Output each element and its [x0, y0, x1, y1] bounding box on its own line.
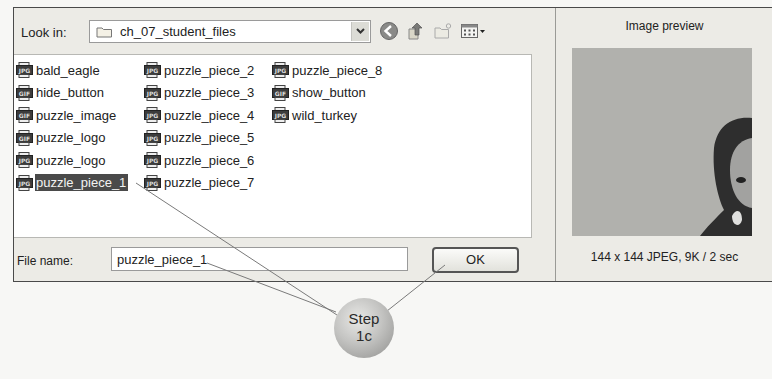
file-list-item-label: puzzle_image — [35, 107, 118, 124]
file-list-item-label: bald_eagle — [35, 62, 102, 79]
file-list-item[interactable]: JPGbald_eagle — [16, 59, 128, 82]
svg-text:JPG: JPG — [274, 112, 287, 120]
folder-icon — [96, 26, 113, 38]
jpg-file-icon: JPG — [16, 175, 34, 191]
look-in-dropdown[interactable]: ch_07_student_files — [89, 20, 371, 43]
back-icon[interactable] — [379, 21, 399, 41]
svg-text:JPG: JPG — [146, 179, 159, 187]
file-list-item-label: show_button — [291, 84, 368, 101]
file-list-item[interactable]: JPGpuzzle_piece_4 — [144, 104, 256, 127]
file-name-value: puzzle_piece_1 — [117, 252, 207, 267]
step-callout-line2: 1c — [334, 327, 394, 344]
jpg-file-icon: JPG — [272, 107, 290, 123]
file-list-item-label: puzzle_piece_4 — [163, 107, 256, 124]
jpg-file-icon: JPG — [144, 62, 162, 78]
preview-image — [572, 48, 752, 236]
file-list-item-label: puzzle_piece_6 — [163, 152, 256, 169]
file-list-item-label: wild_turkey — [291, 107, 359, 124]
svg-text:GIF: GIF — [19, 89, 30, 96]
select-image-dialog: Look in: ch_07_student_files — [13, 7, 772, 282]
file-list-item[interactable]: JPGpuzzle_piece_2 — [144, 59, 256, 82]
file-column-1: JPGbald_eagleGIFhide_buttonGIFpuzzle_ima… — [16, 59, 128, 194]
svg-text:JPG: JPG — [146, 67, 159, 75]
file-name-label: File name: — [17, 254, 73, 268]
file-list-item-label: puzzle_piece_5 — [163, 129, 256, 146]
file-list-item-label: puzzle_piece_8 — [291, 62, 384, 79]
file-list-item[interactable]: JPGpuzzle_piece_7 — [144, 172, 256, 195]
svg-text:JPG: JPG — [18, 67, 31, 75]
jpg-file-icon: JPG — [144, 107, 162, 123]
step-callout-badge: Step 1c — [334, 298, 394, 358]
svg-text:JPG: JPG — [18, 179, 31, 187]
new-folder-icon[interactable] — [433, 21, 453, 41]
jpg-file-icon: JPG — [144, 175, 162, 191]
file-list-item[interactable]: JPGpuzzle_piece_1 — [16, 172, 128, 195]
gif-file-icon: GIF — [272, 85, 290, 101]
ok-button[interactable]: OK — [432, 247, 519, 273]
svg-text:JPG: JPG — [146, 157, 159, 165]
file-list-item[interactable]: GIFhide_button — [16, 82, 128, 105]
svg-text:GIF: GIF — [19, 112, 30, 119]
preview-info: 144 x 144 JPEG, 9K / 2 sec — [556, 250, 772, 264]
file-list-item[interactable]: GIFpuzzle_logo — [16, 127, 128, 150]
file-list-item-label: puzzle_piece_2 — [163, 62, 256, 79]
file-list-item-label: puzzle_piece_1 — [35, 174, 128, 191]
file-list-item[interactable]: JPGpuzzle_piece_6 — [144, 149, 256, 172]
jpg-file-icon: JPG — [144, 130, 162, 146]
jpg-file-icon: JPG — [16, 152, 34, 168]
girl-portrait-thumbnail — [572, 48, 752, 236]
chevron-down-icon — [356, 28, 365, 34]
file-list-item[interactable]: JPGpuzzle_piece_3 — [144, 82, 256, 105]
look-in-label: Look in: — [21, 25, 67, 40]
svg-text:JPG: JPG — [146, 134, 159, 142]
file-list-item[interactable]: JPGpuzzle_piece_5 — [144, 127, 256, 150]
file-list-item-label: puzzle_logo — [35, 152, 107, 169]
file-list-item-label: hide_button — [35, 84, 106, 101]
svg-text:JPG: JPG — [146, 112, 159, 120]
file-list-item[interactable]: JPGwild_turkey — [272, 104, 384, 127]
gif-file-icon: GIF — [16, 130, 34, 146]
file-column-2: JPGpuzzle_piece_2JPGpuzzle_piece_3JPGpuz… — [144, 59, 256, 194]
image-preview-panel: Image preview 144 x 144 JPEG, 9K / 2 sec — [556, 8, 772, 281]
file-list-item[interactable]: GIFpuzzle_image — [16, 104, 128, 127]
file-list-item[interactable]: JPGpuzzle_piece_8 — [272, 59, 384, 82]
look-in-dropdown-button[interactable] — [351, 22, 369, 41]
file-column-3: JPGpuzzle_piece_8GIFshow_buttonJPGwild_t… — [272, 59, 384, 127]
view-menu-icon[interactable] — [460, 21, 486, 41]
preview-title: Image preview — [556, 19, 772, 33]
file-list-item-label: puzzle_logo — [35, 129, 107, 146]
svg-text:GIF: GIF — [275, 89, 286, 96]
file-list-item[interactable]: JPGpuzzle_logo — [16, 149, 128, 172]
jpg-file-icon: JPG — [144, 152, 162, 168]
look-in-value: ch_07_student_files — [120, 24, 236, 39]
svg-text:JPG: JPG — [146, 89, 159, 97]
file-list-item-label: puzzle_piece_3 — [163, 84, 256, 101]
step-callout-line1: Step — [334, 310, 394, 327]
file-list-item-label: puzzle_piece_7 — [163, 174, 256, 191]
file-name-input[interactable]: puzzle_piece_1 — [111, 247, 408, 271]
svg-text:JPG: JPG — [18, 157, 31, 165]
file-browser-panel: Look in: ch_07_student_files — [14, 8, 555, 281]
gif-file-icon: GIF — [16, 85, 34, 101]
svg-text:JPG: JPG — [274, 67, 287, 75]
file-list-item[interactable]: GIFshow_button — [272, 82, 384, 105]
up-folder-icon[interactable] — [406, 21, 426, 41]
file-list[interactable]: JPGbald_eagleGIFhide_buttonGIFpuzzle_ima… — [14, 54, 532, 238]
jpg-file-icon: JPG — [16, 62, 34, 78]
jpg-file-icon: JPG — [144, 85, 162, 101]
gif-file-icon: GIF — [16, 107, 34, 123]
jpg-file-icon: JPG — [272, 62, 290, 78]
svg-text:GIF: GIF — [19, 134, 30, 141]
